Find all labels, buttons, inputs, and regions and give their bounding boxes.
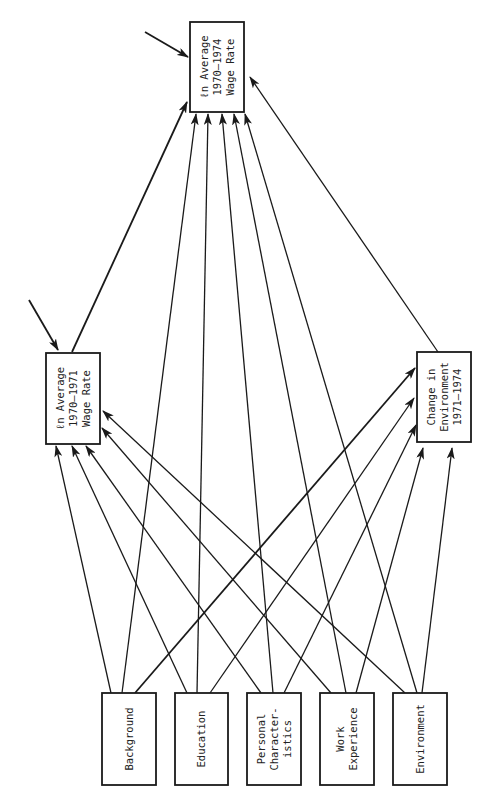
node-label-line: Change in [425, 369, 437, 426]
node-label-line: Environment [414, 704, 426, 774]
node-label-line: Work [334, 726, 346, 752]
node-label-line: ℓn Average [198, 35, 210, 98]
node-label-line: Wage Rate [80, 370, 92, 427]
node-top: ℓn Average1970–1974Wage Rate [190, 22, 244, 112]
arrow-environment-to-change [422, 448, 452, 693]
node-label-line: 1971–1974 [451, 369, 463, 426]
arrow-background-to-change [135, 368, 415, 693]
node-label-line: Wage Rate [224, 39, 236, 96]
node-label: Environment [414, 704, 426, 774]
node-label: ℓn Average1970–1971Wage Rate [54, 367, 92, 430]
node-label: Change inEnvironment1971–1974 [425, 362, 463, 432]
arrow-background-to-top [122, 114, 196, 693]
arrow-education-to-left [72, 446, 187, 693]
node-label-line: Character- [268, 707, 280, 770]
arrow-environment-to-left [103, 411, 405, 693]
node-personal: PersonalCharacter-istics [247, 693, 301, 785]
arrow-education-to-top [197, 114, 208, 693]
arrow-work-to-left [102, 428, 331, 693]
node-label-line: Education [195, 711, 207, 768]
node-change: Change inEnvironment1971–1974 [417, 352, 471, 442]
node-label-line: ℓn Average [54, 367, 66, 430]
node-education: Education [175, 693, 228, 785]
arrow-personal-to-left [86, 446, 261, 693]
arrow-change-to-top [250, 77, 438, 352]
arrow-personal-to-top [222, 114, 273, 693]
node-label-line: istics [281, 720, 293, 758]
node-label-line: 1970–1974 [211, 39, 223, 96]
node-label-line: Environment [438, 362, 450, 432]
node-environment: Environment [393, 693, 447, 785]
node-background: Background [102, 693, 156, 785]
node-label: Background [123, 707, 135, 770]
node-label-line: Experience [347, 707, 359, 770]
arrow-education-to-change [210, 398, 414, 693]
node-label: Education [195, 711, 207, 768]
arrow-error-to-left [29, 300, 58, 350]
node-label-line: Background [123, 707, 135, 770]
arrow-error-to-top [145, 32, 188, 57]
arrow-background-to-left [56, 446, 111, 693]
path-diagram: ℓn Average1970–1974Wage Rateℓn Average19… [0, 0, 478, 790]
node-work: WorkExperience [320, 693, 374, 785]
node-label-line: Personal [255, 714, 267, 765]
node-label-line: 1970–1971 [67, 370, 79, 427]
arrow-work-to-top [234, 114, 346, 693]
node-label: ℓn Average1970–1974Wage Rate [198, 35, 236, 98]
nodes-layer: ℓn Average1970–1974Wage Rateℓn Average19… [46, 22, 471, 785]
node-left: ℓn Average1970–1971Wage Rate [46, 353, 100, 444]
